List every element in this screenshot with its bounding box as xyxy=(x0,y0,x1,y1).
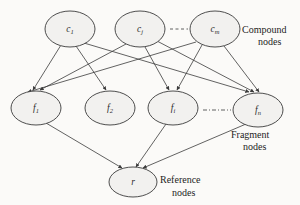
label-compound-line2: nodes xyxy=(258,36,281,47)
fragment-node-f1[interactable]: f1 xyxy=(11,91,61,125)
reference-node-r[interactable]: r xyxy=(109,167,157,197)
diagram-canvas: c1 cj cm f1 f2 fi fn r xyxy=(0,0,300,205)
compound-node-cj[interactable]: cj xyxy=(115,11,165,47)
label-reference-nodes: Reference nodes xyxy=(160,174,201,198)
edge-fi-r xyxy=(136,124,166,167)
edge-cm-fi xyxy=(177,45,202,90)
compound-node-c1[interactable]: c1 xyxy=(45,11,95,47)
fragment-node-fn[interactable]: fn xyxy=(233,93,283,127)
edge-c1-fn xyxy=(84,43,249,92)
label-compound-line1: Compound xyxy=(242,24,286,35)
fragment-node-fi[interactable]: fi xyxy=(148,91,198,125)
edge-group-fragment-reference xyxy=(46,123,246,168)
label-fragment-line1: Fragment xyxy=(231,129,270,140)
edge-group-compound-fragment xyxy=(28,41,259,92)
node-graph-svg: c1 cj cm f1 f2 fi fn r xyxy=(0,0,300,205)
label-reference-line1: Reference xyxy=(160,174,201,185)
node-label-r: r xyxy=(131,177,135,187)
edge-cm-f1 xyxy=(28,42,196,92)
label-reference-line2: nodes xyxy=(172,187,195,198)
fragment-node-f2[interactable]: f2 xyxy=(85,91,135,125)
edge-f1-r xyxy=(46,123,122,168)
label-fragment-line2: nodes xyxy=(243,141,266,152)
label-compound-nodes: Compound nodes xyxy=(242,24,286,47)
label-fragment-nodes: Fragment nodes xyxy=(231,129,270,152)
compound-node-cm[interactable]: cm xyxy=(190,11,240,47)
